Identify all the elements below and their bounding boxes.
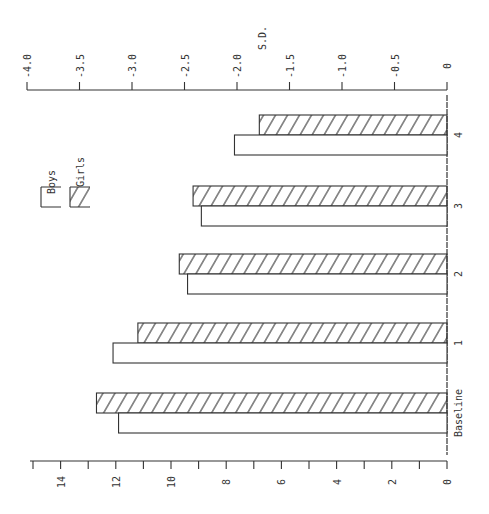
value-tick-label: 4 [332, 479, 343, 485]
sd-tick-label: -1.0 [337, 54, 348, 78]
legend: Boys Girls [41, 157, 90, 207]
sd-tick-label: -0.5 [390, 54, 401, 78]
bar-group [179, 254, 447, 294]
bar-boys [113, 343, 447, 363]
sd-tick-label: -3.0 [127, 54, 138, 78]
value-tick-label: 6 [276, 479, 287, 485]
bar-boys [188, 274, 447, 294]
value-tick-label: 8 [221, 479, 232, 485]
bar-girls [193, 186, 447, 206]
sd-tick-label: -3.5 [75, 54, 86, 78]
sd-tick-label: -1.5 [285, 54, 296, 78]
category-label: 1 [453, 340, 464, 346]
bar-girls [179, 254, 447, 274]
legend-boys: Boys [41, 170, 61, 207]
category-label: 4 [453, 132, 464, 138]
sd-axis: 0-0.5-1.0-1.5-2.0-2.5-3.0-3.5-4.0 S.D. [22, 26, 453, 90]
sd-tick-label: -4.0 [22, 54, 33, 78]
sd-tick-label: 0 [442, 63, 453, 69]
svg-text:Boys: Boys [46, 170, 57, 194]
category-label: 2 [453, 271, 464, 277]
value-tick-label: 2 [387, 479, 398, 485]
bar-group [193, 186, 447, 226]
category-label: Baseline [453, 389, 464, 437]
bar-girls [96, 393, 447, 413]
value-tick-label: 12 [111, 476, 122, 488]
value-tick-label: 10 [166, 476, 177, 488]
bar-boys [201, 206, 447, 226]
bar-group [96, 393, 447, 433]
bar-chart: 0-0.5-1.0-1.5-2.0-2.5-3.0-3.5-4.0 S.D. B… [0, 0, 489, 514]
bars [96, 115, 447, 433]
value-tick-label: 0 [442, 479, 453, 485]
category-label: 3 [453, 203, 464, 209]
legend-girls: Girls [70, 157, 90, 207]
bar-boys [234, 135, 447, 155]
value-tick-label: 14 [56, 476, 67, 488]
bar-girls [259, 115, 447, 135]
bar-girls [138, 323, 447, 343]
sd-tick-label: -2.0 [232, 54, 243, 78]
bar-group [234, 115, 447, 155]
bar-group [113, 323, 447, 363]
sd-tick-label: -2.5 [180, 54, 191, 78]
svg-text:Girls: Girls [75, 157, 86, 187]
category-axis: Baseline1234 [447, 95, 464, 455]
value-axis: 02468101214 [30, 461, 453, 488]
sd-axis-label: S.D. [257, 26, 268, 50]
bar-boys [119, 413, 447, 433]
